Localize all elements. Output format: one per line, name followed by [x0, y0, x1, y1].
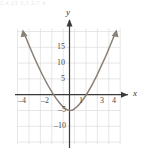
graph-figure: 2.4 23 3.5 2.7 4	[0, 0, 146, 153]
curve-right-arrowhead	[112, 30, 119, 38]
y-tick-label-5: 5	[61, 75, 65, 83]
y-tick-label-10: 10	[57, 59, 65, 67]
y-tick-label-15: 15	[57, 43, 65, 51]
x-tick-label-neg2: –2	[41, 97, 49, 105]
x-tick-label-4: 4	[112, 97, 116, 105]
x-tick-label-3: 3	[100, 97, 104, 105]
y-tick-label-neg10: –10	[54, 122, 66, 130]
y-axis-arrowhead	[67, 19, 73, 27]
x-tick-label-neg4: –4	[18, 97, 26, 105]
y-axis	[67, 19, 73, 148]
grid-lines	[18, 29, 121, 145]
x-axis-arrowhead	[121, 92, 128, 98]
x-axis-label: x	[133, 89, 137, 98]
curve-left-arrowhead	[21, 30, 28, 38]
y-axis-label: y	[66, 8, 70, 17]
coordinate-plane	[0, 0, 146, 153]
x-tick-label-1: 1	[79, 97, 83, 105]
y-tick-label-neg5: –5	[58, 106, 66, 114]
